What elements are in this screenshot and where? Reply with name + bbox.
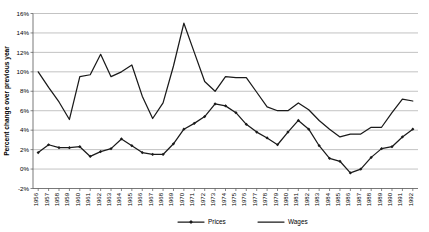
- x-tick-label: 1964: [116, 192, 122, 206]
- x-tick-label: 1960: [75, 192, 81, 206]
- x-tick-label: 1988: [366, 192, 372, 206]
- x-tick-label: 1974: [221, 192, 227, 206]
- legend-swatch-marker-prices: [189, 220, 193, 224]
- y-tick-label: 16%: [17, 10, 30, 17]
- y-tick-label: 12%: [17, 49, 30, 56]
- x-tick-label: 1963: [106, 192, 112, 206]
- x-tick-label: 1981: [293, 192, 299, 206]
- x-tick-label: 1985: [335, 192, 341, 206]
- y-tick-label: 14%: [17, 29, 30, 36]
- y-tick-label: 2%: [20, 146, 29, 153]
- x-tick-label: 1961: [85, 192, 91, 206]
- x-tick-label: 1991: [397, 192, 403, 206]
- x-tick-label: 1986: [345, 192, 351, 206]
- x-tick-label: 1969: [168, 192, 174, 206]
- x-tick-label: 1968: [158, 192, 164, 206]
- legend-label-wages: Wages: [288, 218, 308, 226]
- x-tick-label: 1966: [137, 192, 143, 206]
- x-tick-label: 1989: [377, 192, 383, 206]
- x-tick-label: 1959: [64, 192, 70, 206]
- x-tick-label: 1980: [283, 192, 289, 206]
- chart-legend: PricesWages: [178, 218, 308, 226]
- x-tick-label: 1978: [262, 192, 268, 206]
- x-axis-ticks: 1956195719581959196019611962196319641965…: [33, 189, 414, 207]
- y-tick-label: 8%: [20, 87, 29, 94]
- x-tick-label: 1972: [200, 192, 206, 206]
- series-line-prices: [38, 104, 413, 173]
- x-tick-label: 1984: [325, 192, 331, 206]
- y-tick-label: 6%: [20, 107, 29, 114]
- x-tick-label: 1965: [127, 192, 133, 206]
- y-tick-label: 10%: [17, 68, 30, 75]
- percent-change-line-chart: 16%14%12%10%8%6%4%2%0%-2% Percent change…: [0, 0, 429, 232]
- x-tick-label: 1967: [148, 192, 154, 206]
- x-tick-label: 1990: [387, 192, 393, 206]
- y-axis-ticks: 16%14%12%10%8%6%4%2%0%-2%: [17, 10, 33, 192]
- x-tick-label: 1992: [408, 192, 414, 206]
- x-tick-label: 1977: [252, 192, 258, 206]
- data-point-marker: [57, 146, 60, 149]
- x-tick-label: 1982: [304, 192, 310, 206]
- axes: [33, 14, 418, 189]
- legend-label-prices: Prices: [208, 218, 226, 225]
- gridlines: [33, 14, 418, 170]
- y-tick-label: -2%: [18, 185, 30, 192]
- data-point-marker: [68, 146, 71, 149]
- y-axis-title: Percent change over previous year: [3, 46, 11, 156]
- x-tick-label: 1971: [189, 192, 195, 206]
- x-tick-label: 1973: [210, 192, 216, 206]
- x-tick-label: 1983: [314, 192, 320, 206]
- x-tick-label: 1962: [96, 192, 102, 206]
- x-tick-label: 1979: [273, 192, 279, 206]
- y-tick-label: 0%: [20, 165, 29, 172]
- x-tick-label: 1975: [231, 192, 237, 206]
- x-tick-label: 1970: [179, 192, 185, 206]
- data-point-marker: [151, 153, 154, 156]
- y-axis-label: Percent change over previous year: [3, 46, 11, 156]
- y-tick-label: 4%: [20, 126, 29, 133]
- data-series: [37, 23, 415, 174]
- x-tick-label: 1987: [356, 192, 362, 206]
- x-tick-label: 1976: [241, 192, 247, 206]
- x-tick-label: 1957: [44, 192, 50, 206]
- series-line-wages: [38, 23, 413, 137]
- x-tick-label: 1958: [54, 192, 60, 206]
- x-tick-label: 1956: [33, 192, 39, 206]
- chart-container: 16%14%12%10%8%6%4%2%0%-2% Percent change…: [0, 0, 429, 232]
